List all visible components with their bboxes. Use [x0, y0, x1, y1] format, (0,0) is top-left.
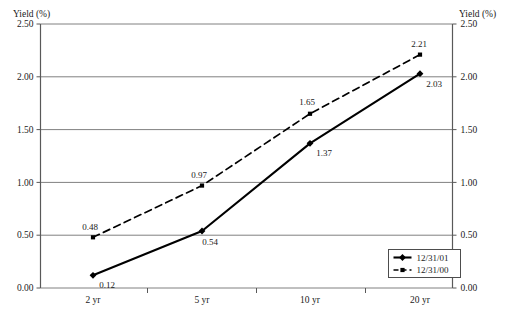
- data-point-value-label: 2.21: [411, 39, 427, 49]
- x-tick-labels: 2 yr5 yr10 yr20 yr: [85, 295, 430, 305]
- chart-legend[interactable]: 12/31/0112/31/00: [389, 250, 461, 278]
- data-point-value-label: 0.54: [202, 237, 218, 247]
- x-axis-category-label: 10 yr: [300, 295, 321, 305]
- x-tick-marks: [148, 288, 366, 293]
- x-axis-category-label: 2 yr: [85, 295, 101, 305]
- data-point-marker-square: [200, 183, 204, 187]
- yield-curve-chart: Yield (%) Yield (%) 0.000.501.001.502.00…: [0, 0, 507, 318]
- data-point-value-label: 0.48: [82, 222, 98, 232]
- x-axis-category-label: 5 yr: [194, 295, 210, 305]
- right-tick-labels: 0.000.501.001.502.002.50: [461, 19, 478, 293]
- data-point-marker-square: [418, 53, 422, 57]
- y-axis-tick-label: 1.00: [461, 178, 478, 188]
- y-axis-tick-label: 0.50: [461, 230, 478, 240]
- data-point-value-label: 1.37: [316, 148, 332, 158]
- y-axis-tick-label: 0.00: [461, 283, 478, 293]
- series-line-1: [93, 55, 420, 238]
- series-line-0: [93, 74, 420, 276]
- data-point-marker-diamond: [90, 272, 97, 279]
- y-axis-tick-label: 2.50: [17, 19, 34, 29]
- data-point-value-label: 0.97: [191, 170, 207, 180]
- legend-label-0[interactable]: 12/31/01: [417, 253, 449, 263]
- chart-container: Yield (%) Yield (%) 0.000.501.001.502.00…: [0, 0, 507, 318]
- left-tick-labels: 0.000.501.001.502.002.50: [17, 19, 34, 293]
- series-markers: [90, 53, 424, 279]
- y-axis-tick-label: 0.00: [17, 283, 34, 293]
- y-axis-tick-label: 0.50: [17, 230, 34, 240]
- data-point-marker-square: [400, 268, 404, 272]
- y-axis-tick-label: 2.50: [461, 19, 478, 29]
- data-point-value-label: 0.12: [99, 280, 115, 290]
- data-point-marker-square: [308, 112, 312, 116]
- y-axis-tick-label: 1.50: [17, 125, 34, 135]
- legend-label-1[interactable]: 12/31/00: [417, 265, 450, 275]
- data-point-value-label: 2.03: [426, 79, 442, 89]
- y-axis-tick-label: 2.00: [461, 72, 478, 82]
- series-lines: [93, 55, 420, 276]
- y-axis-tick-label: 1.50: [461, 125, 478, 135]
- data-point-marker-square: [91, 235, 95, 239]
- data-point-value-label: 1.65: [299, 97, 315, 107]
- y-axis-tick-label: 2.00: [17, 72, 34, 82]
- x-axis-category-label: 20 yr: [410, 295, 431, 305]
- y-axis-tick-label: 1.00: [17, 178, 34, 188]
